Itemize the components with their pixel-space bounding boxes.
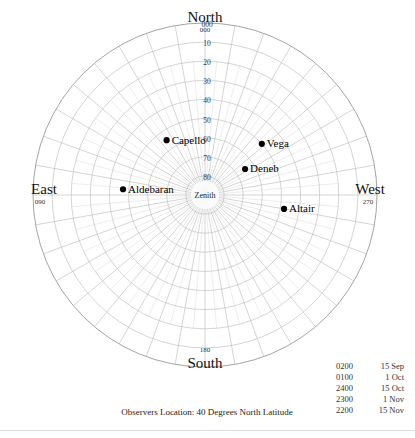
azimuth-minor-line-115 xyxy=(84,195,205,252)
cardinal-label-west: West xyxy=(355,181,385,197)
cardinal-azimuth-east: 090 xyxy=(35,198,46,206)
cardinal-azimuth-south: 180 xyxy=(200,346,211,354)
zenith-label: Zenith xyxy=(195,191,216,200)
altitude-tick-50: 50 xyxy=(203,116,211,125)
azimuth-minor-line-195 xyxy=(205,195,240,324)
star-label-deneb: Deneb xyxy=(250,162,279,174)
star-dot-aldebaran xyxy=(120,186,126,192)
star-label-vega: Vega xyxy=(267,137,289,149)
cardinal-label-north: North xyxy=(188,9,223,25)
altitude-tick-20: 20 xyxy=(203,58,211,67)
star-dot-deneb xyxy=(242,166,248,172)
altitude-tick-30: 30 xyxy=(203,77,211,86)
legend-date-0: 15 Sep xyxy=(381,361,404,371)
star-marker-group: Vega xyxy=(259,137,289,149)
altitude-tick-80: 80 xyxy=(203,173,211,182)
legend-time-3: 2300 xyxy=(336,394,353,404)
altitude-tick-10: 10 xyxy=(203,39,211,48)
star-label-capello: Capello xyxy=(172,134,207,146)
azimuth-minor-line-105 xyxy=(76,195,205,230)
legend-date-3: 1 Nov xyxy=(383,394,405,404)
azimuth-minor-line-185 xyxy=(205,195,217,328)
star-marker-group: Altair xyxy=(281,202,315,214)
star-marker-group: Capello xyxy=(164,134,207,146)
star-label-aldebaran: Aldebaran xyxy=(128,183,174,195)
altitude-tick-40: 40 xyxy=(203,96,211,105)
star-marker-group: Aldebaran xyxy=(120,183,174,195)
legend-layer: 020015 Sep01001 Oct240015 Oct23001 Nov22… xyxy=(336,361,405,415)
cardinal-azimuth-north: 000 xyxy=(200,26,211,34)
star-dot-altair xyxy=(281,206,287,212)
azimuth-minor-line-175 xyxy=(193,195,205,328)
azimuth-minor-line-155 xyxy=(148,195,205,316)
azimuth-minor-line-15 xyxy=(170,66,205,195)
legend-date-2: 15 Oct xyxy=(381,383,405,393)
azimuth-minor-line-205 xyxy=(205,195,262,316)
legend-time-2: 2400 xyxy=(336,383,353,393)
star-chart-figure: 0001020304050607080Zenith North000East09… xyxy=(0,0,415,438)
star-label-altair: Altair xyxy=(289,202,315,214)
altitude-tick-70: 70 xyxy=(203,154,211,163)
azimuth-minor-line-165 xyxy=(170,195,205,324)
star-dot-vega xyxy=(259,141,265,147)
azimuth-minor-line-265 xyxy=(205,195,338,207)
azimuth-minor-line-335 xyxy=(205,74,262,195)
cardinal-label-east: East xyxy=(31,181,58,197)
legend-date-4: 15 Nov xyxy=(379,405,405,415)
cardinal-label-south: South xyxy=(187,355,223,371)
cardinal-azimuth-west: 270 xyxy=(363,198,374,206)
legend-time-0: 0200 xyxy=(336,361,353,371)
star-dot-capello xyxy=(164,137,170,143)
legend-time-1: 0100 xyxy=(336,372,353,382)
star-marker-group: Deneb xyxy=(242,162,279,174)
bottom-divider xyxy=(0,430,415,431)
azimuth-minor-line-275 xyxy=(205,183,338,195)
azimuth-minor-line-95 xyxy=(72,195,205,207)
legend-time-4: 2200 xyxy=(336,405,353,415)
azimuth-minor-line-255 xyxy=(205,195,334,230)
observer-location-caption: Observers Location: 40 Degrees North Lat… xyxy=(121,407,293,417)
polar-star-chart: 0001020304050607080Zenith North000East09… xyxy=(0,0,415,438)
legend-date-1: 1 Oct xyxy=(385,372,404,382)
